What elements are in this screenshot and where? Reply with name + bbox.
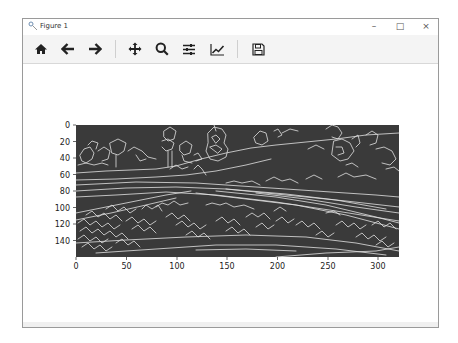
x-tick-label: 200 <box>270 262 285 271</box>
maximize-button[interactable]: □ <box>389 20 411 33</box>
floppy-disk-icon <box>252 43 265 56</box>
y-tick-labels: 0 20 40 60 80 100 120 140 <box>55 121 70 246</box>
line-chart-icon <box>210 43 225 56</box>
zoom-button[interactable] <box>153 41 171 57</box>
title-bar[interactable]: Figure 1 – □ × <box>23 19 438 35</box>
y-tick-label: 20 <box>60 138 70 147</box>
y-tick-label: 60 <box>60 171 70 180</box>
x-tick-label: 150 <box>219 262 234 271</box>
x-tick-label: 0 <box>73 262 78 271</box>
y-tick-label: 0 <box>65 121 70 130</box>
arrow-left-icon <box>61 43 75 55</box>
save-button[interactable] <box>249 41 267 57</box>
y-tick-label: 100 <box>55 204 70 213</box>
home-icon <box>34 43 48 55</box>
x-tick-label: 100 <box>169 262 184 271</box>
x-tick-label: 250 <box>320 262 335 271</box>
minimize-button[interactable]: – <box>363 20 385 33</box>
move-icon <box>128 42 142 56</box>
edit-parameters-button[interactable] <box>208 41 226 57</box>
window-title: Figure 1 <box>40 22 68 30</box>
configure-subplots-button[interactable] <box>180 41 198 57</box>
x-tick-label: 300 <box>370 262 385 271</box>
close-button[interactable]: × <box>415 20 437 33</box>
figure-window: Figure 1 – □ × <box>22 18 439 328</box>
arrow-right-icon <box>88 43 102 55</box>
toolbar-separator <box>115 40 116 58</box>
pan-button[interactable] <box>126 41 144 57</box>
magnifier-icon <box>155 42 169 56</box>
toolbar-separator <box>237 40 238 58</box>
y-tick-label: 120 <box>55 220 70 229</box>
forward-button[interactable] <box>86 41 104 57</box>
navigation-toolbar <box>23 35 438 64</box>
back-button[interactable] <box>59 41 77 57</box>
matplotlib-app-icon <box>28 21 38 31</box>
y-tick-label: 40 <box>60 154 70 163</box>
y-tick-label: 140 <box>55 237 70 246</box>
x-tick-labels: 0 50 100 150 200 250 300 <box>73 262 385 271</box>
y-tick-label: 80 <box>60 187 70 196</box>
axes[interactable]: 0 20 40 60 80 100 120 140 0 50 100 150 2… <box>23 64 440 327</box>
status-bar <box>23 322 438 327</box>
x-tick-label: 50 <box>121 262 131 271</box>
home-button[interactable] <box>32 41 50 57</box>
sliders-icon <box>182 43 196 56</box>
figure-canvas[interactable]: 0 20 40 60 80 100 120 140 0 50 100 150 2… <box>23 64 438 327</box>
